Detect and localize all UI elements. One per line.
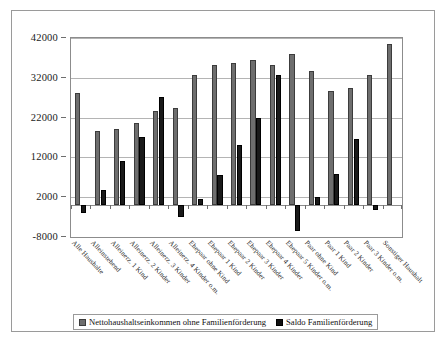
bar-net-bar bbox=[387, 44, 392, 205]
bar-saldo-bar bbox=[295, 205, 300, 231]
bar-net-bar bbox=[153, 111, 158, 205]
x-tick-mark bbox=[285, 205, 286, 209]
x-tick-mark bbox=[188, 205, 189, 209]
bar-net-bar bbox=[289, 54, 294, 205]
x-tick-mark bbox=[401, 205, 402, 209]
y-axis: 420003200022000120002000-8000 bbox=[12, 37, 66, 238]
bar-net-bar bbox=[309, 71, 314, 206]
y-tick-label: 12000 bbox=[31, 151, 58, 162]
bar-net-bar bbox=[212, 65, 217, 205]
bar-net-bar bbox=[367, 75, 372, 205]
x-tick-mark bbox=[110, 205, 111, 209]
bar-net-bar bbox=[134, 123, 139, 205]
y-tick-label: 22000 bbox=[31, 111, 58, 122]
y-tick-label: 42000 bbox=[31, 32, 58, 43]
x-tick-mark bbox=[363, 205, 364, 209]
bar-saldo-bar bbox=[159, 97, 164, 206]
x-tick-mark bbox=[344, 205, 345, 209]
legend-swatch-net-icon bbox=[79, 319, 86, 326]
bar-net-bar bbox=[250, 60, 255, 205]
bar-saldo-bar bbox=[354, 139, 359, 205]
bar-saldo-bar bbox=[276, 75, 281, 205]
x-tick-mark bbox=[383, 205, 384, 209]
y-tick-mark bbox=[61, 156, 66, 157]
x-tick-mark bbox=[149, 205, 150, 209]
x-tick-mark bbox=[168, 205, 169, 209]
x-tick-mark bbox=[266, 205, 267, 209]
chart-legend: Nettohaushaltseinkommen ohne Familienför… bbox=[73, 314, 378, 330]
legend-swatch-saldo-icon bbox=[276, 319, 283, 326]
bar-saldo-bar bbox=[120, 161, 125, 205]
y-tick-mark bbox=[61, 77, 66, 78]
plot-area bbox=[70, 37, 403, 238]
bar-net-bar bbox=[114, 129, 119, 205]
x-tick-mark bbox=[324, 205, 325, 209]
x-tick-mark bbox=[207, 205, 208, 209]
bar-net-bar bbox=[231, 63, 236, 205]
y-tick-mark bbox=[61, 236, 66, 237]
x-tick-mark bbox=[90, 205, 91, 209]
bar-net-bar bbox=[270, 65, 275, 205]
bar-net-bar bbox=[75, 93, 80, 205]
legend-label-net: Nettohaushaltseinkommen ohne Familienför… bbox=[89, 317, 266, 327]
y-tick-label: 2000 bbox=[36, 191, 58, 202]
bar-saldo-bar bbox=[81, 205, 86, 213]
y-tick-mark bbox=[61, 196, 66, 197]
bar-saldo-bar bbox=[198, 199, 203, 205]
bar-saldo-bar bbox=[256, 118, 261, 206]
bar-saldo-bar bbox=[217, 175, 222, 205]
x-tick-mark bbox=[227, 205, 228, 209]
x-tick-mark bbox=[71, 205, 72, 209]
bar-net-bar bbox=[192, 75, 197, 205]
legend-item-net: Nettohaushaltseinkommen ohne Familienför… bbox=[79, 317, 266, 327]
bar-saldo-bar bbox=[101, 190, 106, 206]
bar-saldo-bar bbox=[178, 205, 183, 217]
x-tick-mark bbox=[305, 205, 306, 209]
bar-net-bar bbox=[95, 131, 100, 205]
y-tick-mark bbox=[61, 37, 66, 38]
x-axis-category-labels: Alle HaushalteAlleinstehendAlleinerz. 1 … bbox=[70, 239, 410, 309]
bar-net-bar bbox=[173, 108, 178, 206]
bar-saldo-bar bbox=[237, 145, 242, 205]
bar-net-bar bbox=[328, 91, 333, 205]
gridline bbox=[71, 78, 402, 79]
bar-saldo-bar bbox=[315, 197, 320, 205]
bar-saldo-bar bbox=[373, 205, 378, 209]
x-tick-mark bbox=[246, 205, 247, 209]
x-tick-mark bbox=[129, 205, 130, 209]
legend-item-saldo: Saldo Familienförderung bbox=[276, 317, 372, 327]
y-tick-label: 32000 bbox=[31, 71, 58, 82]
y-tick-label: -8000 bbox=[33, 231, 59, 242]
y-tick-mark bbox=[61, 117, 66, 118]
legend-label-saldo: Saldo Familienförderung bbox=[286, 317, 372, 327]
bar-saldo-bar bbox=[334, 174, 339, 205]
bar-net-bar bbox=[348, 88, 353, 205]
chart-frame: 420003200022000120002000-8000 Alle Haush… bbox=[11, 10, 435, 332]
gridline bbox=[71, 38, 402, 39]
zero-axis-line bbox=[71, 205, 402, 206]
bar-saldo-bar bbox=[139, 137, 144, 205]
